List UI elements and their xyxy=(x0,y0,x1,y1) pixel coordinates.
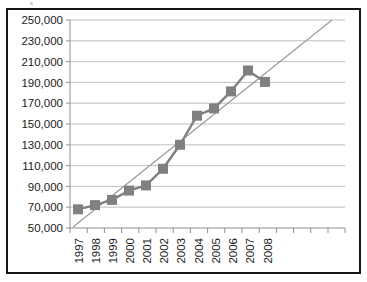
data-point-marker xyxy=(209,103,219,113)
x-tick-label: 2004 xyxy=(193,237,205,263)
data-point-marker xyxy=(73,204,83,214)
x-tick-label: 2002 xyxy=(158,238,170,264)
y-tick-label: 50,000 xyxy=(28,222,63,234)
gridlines xyxy=(70,20,345,207)
data-point-marker xyxy=(226,86,236,96)
x-tick-label: 2006 xyxy=(227,238,239,264)
data-point-marker xyxy=(260,77,270,87)
y-tick-label: 250,000 xyxy=(21,14,63,26)
x-tick-label: 2003 xyxy=(175,238,187,264)
chart-figure: 250,000 230,000 210,000 190,000 170,000 … xyxy=(0,0,367,282)
y-tick-label: 110,000 xyxy=(22,160,63,172)
x-axis-tick-labels: 1997 1998 1999 2000 2001 2002 2003 2004 … xyxy=(73,237,274,263)
data-markers xyxy=(73,66,270,215)
y-tick-label: 150,000 xyxy=(21,118,63,130)
data-point-marker xyxy=(124,186,134,196)
data-point-marker xyxy=(107,195,117,205)
x-tick-label: 2001 xyxy=(141,238,153,264)
data-point-marker xyxy=(141,180,151,190)
data-point-marker xyxy=(243,66,253,76)
x-axis-ticks xyxy=(70,228,345,233)
x-tick-label: 2000 xyxy=(124,238,136,264)
y-tick-label: 130,000 xyxy=(21,139,63,151)
y-axis-ticks xyxy=(66,20,70,228)
data-point-marker xyxy=(90,200,100,210)
line-chart: 250,000 230,000 210,000 190,000 170,000 … xyxy=(0,0,367,282)
y-axis-tick-labels: 250,000 230,000 210,000 190,000 170,000 … xyxy=(21,14,63,234)
y-tick-label: 210,000 xyxy=(21,56,63,68)
data-point-marker xyxy=(175,140,185,150)
y-tick-label: 90,000 xyxy=(28,181,63,193)
x-tick-label: 2008 xyxy=(262,238,274,264)
data-point-marker xyxy=(158,164,168,174)
data-series-polyline xyxy=(78,71,265,210)
data-point-marker xyxy=(192,111,202,121)
y-tick-label: 230,000 xyxy=(21,35,63,47)
x-tick-label: 1998 xyxy=(90,238,102,264)
y-tick-label: 170,000 xyxy=(21,97,63,109)
y-tick-label: 70,000 xyxy=(28,201,63,213)
x-tick-label: 1999 xyxy=(107,238,119,264)
x-tick-label: 2007 xyxy=(244,238,256,264)
y-tick-label: 190,000 xyxy=(21,77,63,89)
x-tick-label: 1997 xyxy=(73,238,85,264)
x-tick-label: 2005 xyxy=(210,238,222,264)
